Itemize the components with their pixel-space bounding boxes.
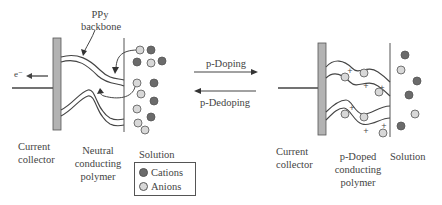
svg-text:+: + bbox=[363, 82, 369, 90]
left-current-collector bbox=[53, 38, 61, 130]
ion-legend: Cations Anions bbox=[134, 162, 196, 196]
right-solution-ions bbox=[397, 51, 421, 130]
p-dedoping-label: p-Dedoping bbox=[192, 96, 258, 109]
neutral-polymer-label-2: conducting bbox=[70, 157, 126, 170]
anion-out-arrow bbox=[101, 87, 135, 98]
doped-polymer-label-2: conducting bbox=[330, 163, 386, 176]
right-panel: + + + + + + bbox=[278, 43, 421, 137]
svg-text:+: + bbox=[363, 127, 369, 135]
ppy-pointer-arrowhead-icon bbox=[81, 49, 87, 56]
left-panel bbox=[12, 30, 166, 134]
left-collector-label-1: Current bbox=[18, 140, 50, 153]
doped-polymer-label-1: p-Doped bbox=[330, 150, 386, 163]
ppy-label-2: backbone bbox=[76, 20, 126, 33]
right-collector-label-1: Current bbox=[276, 145, 308, 158]
right-solution-label: Solution bbox=[390, 150, 426, 163]
left-collector-label-2: collector bbox=[18, 153, 55, 166]
anions-label: Anions bbox=[151, 181, 181, 192]
neutral-polymer-label-3: polymer bbox=[70, 170, 126, 183]
ppy-pointer bbox=[84, 30, 95, 52]
right-current-collector bbox=[318, 43, 326, 135]
p-dedoping-arrowhead-icon bbox=[194, 88, 201, 94]
left-solution-ions bbox=[133, 46, 166, 134]
neutral-polymer-label-1: Neutral bbox=[70, 144, 126, 157]
cation-icon bbox=[139, 168, 148, 177]
reaction-arrows bbox=[194, 69, 258, 94]
neutral-polymer-chains bbox=[61, 55, 124, 126]
anion-icon bbox=[139, 182, 148, 191]
legend-cations: Cations bbox=[139, 165, 183, 179]
electron-arrowhead-icon bbox=[26, 73, 32, 79]
anion-in-arrowhead-icon bbox=[112, 67, 119, 74]
svg-text:+: + bbox=[349, 104, 355, 112]
electron-label: e⁻ bbox=[14, 68, 23, 81]
right-collector-label-2: collector bbox=[276, 158, 313, 171]
left-solution-label: Solution bbox=[139, 148, 175, 161]
doped-polymer-label-3: polymer bbox=[330, 176, 386, 189]
cations-label: Cations bbox=[151, 167, 183, 178]
legend-anions: Anions bbox=[139, 179, 181, 193]
anion-out-arrowhead-icon bbox=[97, 88, 104, 94]
p-doping-label: p-Doping bbox=[196, 57, 256, 70]
